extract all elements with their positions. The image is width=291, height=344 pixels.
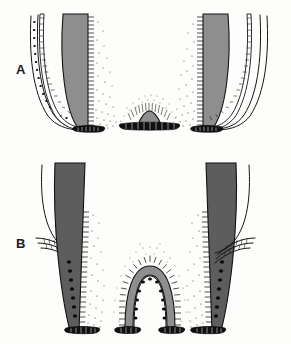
panel-a-label: A <box>16 62 26 77</box>
panel-b-label: B <box>16 236 26 251</box>
basal-bone-band <box>73 126 105 133</box>
figure-plate: A <box>0 0 291 344</box>
basal-bone-band <box>191 327 226 334</box>
basal-bone-band <box>119 122 179 130</box>
basal-bone-band-left <box>115 327 141 334</box>
basal-bone-band-right <box>159 327 185 334</box>
basal-bone-band <box>65 327 100 334</box>
figure-svg: A <box>0 0 291 344</box>
basal-bone-band <box>191 126 223 133</box>
